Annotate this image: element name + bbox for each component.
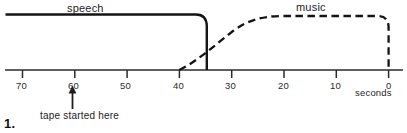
speech-trace bbox=[6, 15, 207, 71]
tick-label-30: 30 bbox=[225, 81, 236, 91]
series-label-music: music bbox=[296, 2, 326, 13]
series-label-speech: speech bbox=[67, 3, 104, 14]
tick-label-50: 50 bbox=[120, 81, 131, 91]
tick-label-60: 60 bbox=[68, 81, 79, 91]
x-axis-ticks bbox=[23, 70, 389, 78]
tape-started-here-label: tape started here bbox=[40, 111, 119, 121]
audio-level-timeline-figure: speech music 70 60 50 40 30 20 10 0 seco… bbox=[0, 0, 407, 133]
tick-label-20: 20 bbox=[278, 81, 289, 91]
tick-label-40: 40 bbox=[173, 81, 184, 91]
tick-label-70: 70 bbox=[16, 81, 27, 91]
music-trace bbox=[179, 16, 388, 70]
tick-label-10: 10 bbox=[330, 81, 341, 91]
figure-caption: 1. bbox=[4, 116, 15, 131]
x-axis-unit-label: seconds bbox=[355, 88, 392, 98]
